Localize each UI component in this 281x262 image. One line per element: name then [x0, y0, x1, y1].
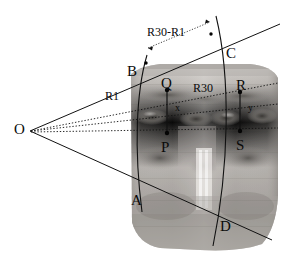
point-label-Q: Q [161, 76, 172, 91]
point-label-D: D [220, 219, 231, 234]
point-label-A: A [131, 193, 142, 208]
measure-label-y: y [248, 103, 253, 113]
point-label-R: R [236, 78, 246, 93]
point-dot-C [209, 32, 212, 35]
point-dot-P [165, 131, 169, 135]
measure-label-r30: R30 [193, 82, 213, 94]
point-label-B: B [127, 64, 137, 79]
measure-label-r1: R1 [105, 90, 119, 102]
measure-label-x: x [175, 103, 180, 113]
point-label-P: P [161, 140, 169, 155]
point-label-C: C [226, 46, 236, 61]
measure-label-r30-r1: R30-R1 [147, 26, 185, 38]
point-dot-S [238, 129, 242, 133]
diagram-svg [0, 0, 281, 262]
figure-canvas: O B C Q R P S A D R30-R1 R1 R30 x y [0, 0, 281, 262]
point-label-O: O [14, 122, 25, 137]
point-label-S: S [236, 138, 244, 153]
point-dot-B [144, 61, 147, 64]
